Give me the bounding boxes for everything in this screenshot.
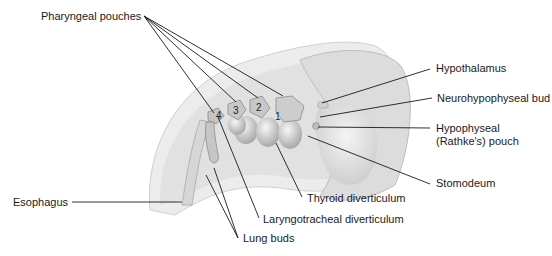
- label-laryngotracheal-diverticulum: Laryngotracheal diverticulum: [263, 213, 404, 226]
- label-thyroid-diverticulum: Thyroid diverticulum: [307, 192, 405, 205]
- label-hypophyseal-pouch-line2: (Rathke's) pouch: [436, 135, 519, 148]
- label-pharyngeal-pouches: Pharyngeal pouches: [41, 10, 141, 23]
- label-esophagus: Esophagus: [13, 196, 68, 209]
- label-hypothalamus: Hypothalamus: [436, 62, 506, 75]
- pouch-number-2: 2: [256, 102, 262, 113]
- label-neurohypophyseal-bud: Neurohypophyseal bud: [437, 92, 550, 105]
- pouch-number-4: 4: [216, 110, 222, 121]
- pouch-number-1: 1: [275, 111, 281, 122]
- label-lung-buds: Lung buds: [243, 232, 294, 245]
- label-stomodeum: Stomodeum: [436, 177, 495, 190]
- diagram-canvas: 1 2 3 4 Pharyngeal pouches Hypothalamus …: [0, 0, 552, 256]
- pouch-number-3: 3: [233, 105, 239, 116]
- label-hypophyseal-pouch-line1: Hypophyseal: [436, 122, 500, 135]
